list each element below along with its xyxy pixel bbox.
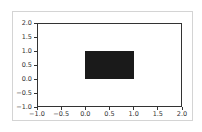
x-tick-label: 1.5 (147, 111, 169, 118)
x-tick-label: 0.0 (74, 111, 96, 118)
y-tick-label: 2.0 (10, 20, 32, 27)
y-tick-label: 0.0 (10, 76, 32, 83)
y-tick-label: −0.5 (10, 90, 32, 97)
y-tick-mark (34, 79, 37, 80)
y-tick-mark (34, 37, 37, 38)
y-tick-mark (34, 23, 37, 24)
y-tick-mark (34, 65, 37, 66)
x-tick-label: 1.0 (123, 111, 145, 118)
x-tick-label: −0.5 (50, 111, 72, 118)
y-tick-label: 1.0 (10, 48, 32, 55)
y-tick-mark (34, 93, 37, 94)
y-tick-mark (34, 51, 37, 52)
x-tick-label: 2.0 (171, 111, 193, 118)
x-tick-label: 0.5 (99, 111, 121, 118)
data-rectangle (85, 51, 133, 79)
y-tick-label: 1.5 (10, 34, 32, 41)
x-tick-label: −1.0 (26, 111, 48, 118)
y-tick-label: 0.5 (10, 62, 32, 69)
